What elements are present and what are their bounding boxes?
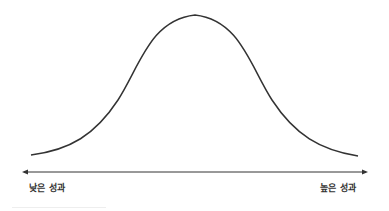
low-performance-label: 낮은 성과 — [29, 181, 65, 194]
bell-curve-diagram — [0, 0, 389, 211]
arrow-right-icon — [362, 170, 368, 175]
bell-curve — [31, 15, 358, 156]
divider — [12, 207, 106, 208]
high-performance-label: 높은 성과 — [320, 181, 356, 194]
arrow-left-icon — [22, 170, 28, 175]
